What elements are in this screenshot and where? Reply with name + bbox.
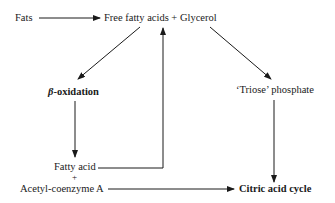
- arrow-ffa-to-triose: [210, 27, 271, 79]
- beta-oxidation-text: -oxidation: [53, 86, 99, 97]
- node-acetyl-coa: Acetyl-coenzyme A: [20, 184, 104, 195]
- arrow-fatty-acid-recycle: [98, 28, 163, 168]
- node-citric-acid-cycle: Citric acid cycle: [239, 184, 311, 195]
- node-ffa-glycerol: Free fatty acids + Glycerol: [104, 13, 217, 24]
- node-fatty-acid: Fatty acid: [54, 162, 96, 173]
- arrow-ffa-to-beta-oxidation: [78, 27, 140, 79]
- node-triose-phosphate: ‘Triose’ phosphate: [236, 85, 314, 96]
- diagram-edges: [0, 0, 335, 203]
- node-beta-oxidation: β-oxidation: [48, 87, 99, 98]
- node-fats: Fats: [15, 13, 33, 24]
- plus-sign: +: [72, 173, 77, 182]
